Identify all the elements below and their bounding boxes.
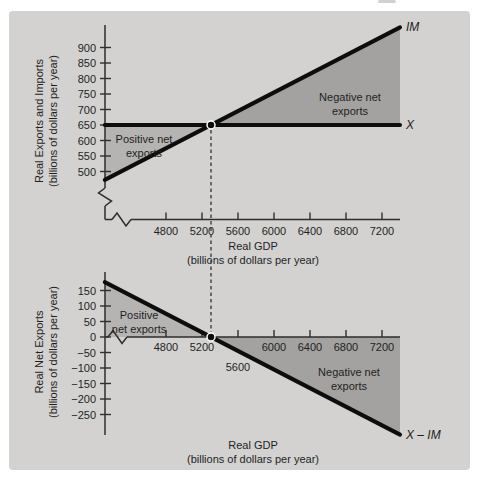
exports-imports-x-tick-label: 7200 xyxy=(370,225,394,237)
net-exports-y-tick-label: 150 xyxy=(78,285,96,297)
net-exports-x-tick-label: 6800 xyxy=(334,341,358,353)
net-exports-y-tick-label: 0 xyxy=(90,331,96,343)
exports-imports-negative-net-exports-label: Negative net xyxy=(319,91,381,103)
net-exports-x-tick-label: 4800 xyxy=(154,341,178,353)
exports-imports-X-curve-label: X xyxy=(405,118,415,132)
exports-imports-x-axis-title: Real GDP xyxy=(228,240,278,252)
exports-imports-y-tick-label: 900 xyxy=(78,42,96,54)
net-exports-negative-net-exports-label: exports xyxy=(331,380,368,392)
net-exports-x-tick-label-offset: 5600 xyxy=(226,361,250,373)
exports-imports-positive-net-exports-label: Positive net xyxy=(116,133,173,145)
net-exports-positive-net-exports-label: Positive xyxy=(120,309,159,321)
exports-imports-x-tick-label: 6400 xyxy=(298,225,322,237)
exports-imports-y-tick-label: 700 xyxy=(78,104,96,116)
net-exports-y-axis-title: (billions of dollars per year) xyxy=(47,286,59,418)
exports-imports-y-tick-label: 650 xyxy=(78,119,96,131)
net-exports-y-axis-title: Real Net Exports xyxy=(33,310,45,394)
net-exports-chart-svg: 9008508007507006506005505004800520056006… xyxy=(0,0,479,482)
exports-imports-y-tick-label: 850 xyxy=(78,57,96,69)
net-exports-x-tick-label: 5200 xyxy=(190,341,214,353)
net-exports-X-IM-curve-label: X – IM xyxy=(405,428,441,442)
net-exports-negative-net-exports-label: Negative net xyxy=(318,366,380,378)
exports-imports-IM-curve-label: IM xyxy=(406,20,419,34)
exports-imports-positive-net-exports-label: exports xyxy=(126,147,163,159)
net-exports-y-tick-label: −100 xyxy=(71,362,96,374)
net-exports-y-tick-label: −50 xyxy=(77,347,96,359)
exports-imports-y-tick-label: 800 xyxy=(78,73,96,85)
net-exports-y-tick-label: 100 xyxy=(78,300,96,312)
exports-imports-y-axis-title: Real Exports and Imports xyxy=(33,58,45,183)
exports-imports-x-tick-label: 4800 xyxy=(154,225,178,237)
net-exports-y-tick-label: −150 xyxy=(71,378,96,390)
equilibrium-dot xyxy=(207,121,215,129)
exports-imports-x-axis-title: (billions of dollars per year) xyxy=(187,254,319,266)
net-exports-x-tick-label: 6000 xyxy=(262,341,286,353)
exports-imports-y-axis-break xyxy=(99,188,112,206)
exports-imports-x-axis-break xyxy=(112,213,131,226)
net-exports-x-axis-title: Real GDP xyxy=(228,439,278,451)
net-exports-y-tick-label: 50 xyxy=(84,316,96,328)
net-exports-positive-net-exports-label: net exports xyxy=(112,323,167,335)
exports-imports-x-tick-label: 6800 xyxy=(334,225,358,237)
net-exports-x-axis-title: (billions of dollars per year) xyxy=(187,453,319,465)
net-exports-y-tick-label: −250 xyxy=(71,409,96,421)
exports-imports-y-tick-label: 500 xyxy=(78,166,96,178)
exports-imports-x-tick-label: 5600 xyxy=(226,225,250,237)
equilibrium-dot xyxy=(207,333,215,341)
exports-imports-x-tick-label: 6000 xyxy=(262,225,286,237)
figure-page: 9008508007507006506005505004800520056006… xyxy=(0,0,479,482)
exports-imports-y-tick-label: 600 xyxy=(78,135,96,147)
exports-imports-y-tick-label: 550 xyxy=(78,150,96,162)
net-exports-y-tick-label: −200 xyxy=(71,393,96,405)
exports-imports-negative-net-exports-label: exports xyxy=(332,105,369,117)
net-exports-x-tick-label: 7200 xyxy=(370,341,394,353)
exports-imports-y-tick-label: 750 xyxy=(78,88,96,100)
exports-imports-y-axis-title: (billions of dollars per year) xyxy=(47,55,59,187)
net-exports-x-tick-label: 6400 xyxy=(298,341,322,353)
